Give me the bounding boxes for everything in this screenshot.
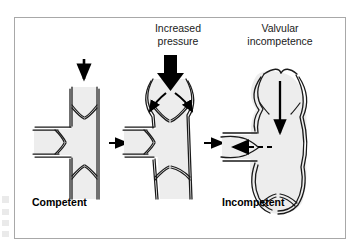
figure-root: Increased pressure Valvular incompetence… [0,0,361,251]
caption-competent: Competent [32,196,87,208]
caption-increased-pressure: Increased pressure [130,22,226,47]
panel-incompetent [221,69,307,214]
panel-increased-pressure [123,55,194,199]
panel-competent [33,59,99,199]
vein-lumen-fill-incompetent [222,71,307,214]
scan-artifact [2,220,9,226]
scan-artifact [2,231,9,237]
scan-artifact [2,196,9,203]
vein-lumen-fill-competent [34,87,96,199]
scan-artifact [2,209,9,215]
caption-incompetent: Incompetent [222,196,284,208]
vein-lumen-fill-pressure [124,79,192,199]
caption-valvular-incompetence: Valvular incompetence [228,22,332,47]
